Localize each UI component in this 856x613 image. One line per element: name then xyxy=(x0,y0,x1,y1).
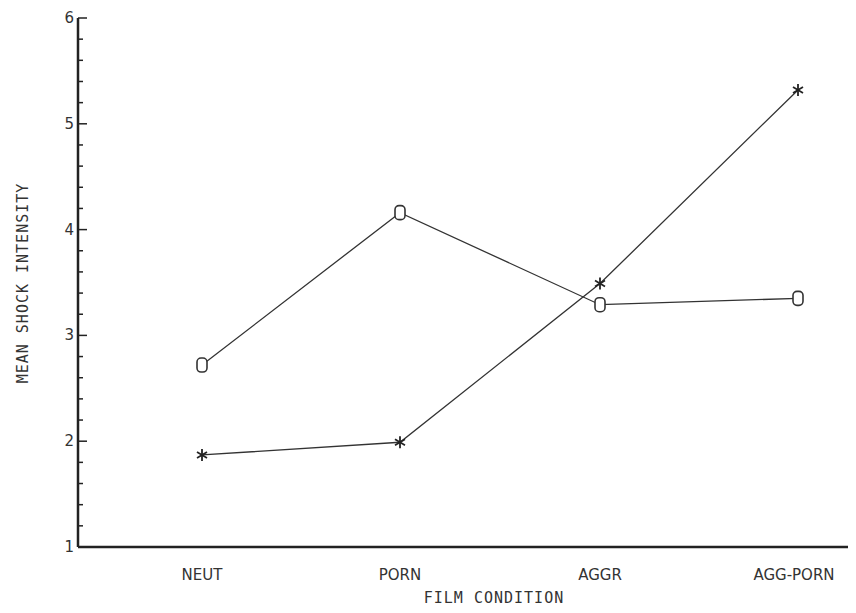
y-tick-label: 2 xyxy=(64,432,74,450)
x-tick-label: NEUT xyxy=(182,566,224,584)
y-tick-label: 6 xyxy=(64,9,74,27)
marker-o xyxy=(595,298,605,312)
series-line-o xyxy=(202,213,798,365)
y-tick-label: 4 xyxy=(64,221,74,239)
marker-o xyxy=(395,206,405,220)
y-tick-label: 5 xyxy=(64,115,74,133)
x-tick-label: PORN xyxy=(379,566,422,584)
y-axis: 123456 xyxy=(64,9,87,556)
y-axis-title: MEAN SHOCK INTENSITY xyxy=(14,183,32,384)
line-chart: 123456 NEUTPORNAGGRAGG-PORN FILM CONDITI… xyxy=(0,0,856,613)
marker-o xyxy=(197,358,207,372)
series-line-star xyxy=(202,90,798,455)
y-tick-label: 3 xyxy=(64,326,74,344)
marker-o xyxy=(793,291,803,305)
x-axis-title: FILM CONDITION xyxy=(424,589,564,607)
x-tick-label: AGG-PORN xyxy=(753,566,834,584)
x-axis: NEUTPORNAGGRAGG-PORN xyxy=(78,547,848,584)
y-tick-label: 1 xyxy=(64,538,74,556)
series-group xyxy=(197,84,803,461)
x-tick-label: AGGR xyxy=(578,566,622,584)
